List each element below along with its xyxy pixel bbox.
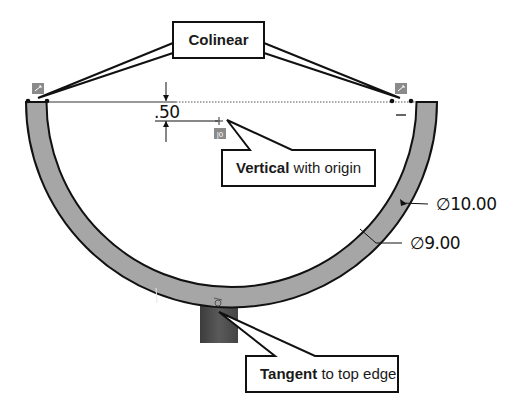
outer-diameter-value: ∅10.00: [436, 194, 496, 214]
origin-point[interactable]: [215, 117, 223, 125]
support-block: [200, 305, 238, 343]
offset-dimension[interactable]: .50: [154, 82, 218, 142]
endpoint[interactable]: [390, 99, 395, 104]
vertical-relation-icon[interactable]: |0: [214, 128, 226, 139]
colinear-label: Colinear: [188, 31, 248, 48]
vertical-callout: Vertical with origin: [222, 120, 375, 186]
vertical-label: Vertical with origin: [236, 159, 361, 176]
ring-arc: [26, 102, 437, 307]
endpoint[interactable]: [409, 99, 414, 104]
tangent-label: Tangent to top edge: [260, 365, 396, 382]
endpoint[interactable]: [26, 99, 31, 104]
inner-diameter-value: ∅9.00: [410, 233, 460, 253]
offset-value: .50: [154, 102, 180, 122]
svg-text:|0: |0: [217, 130, 224, 139]
sketch-canvas: Colinear .50 |0 Vertical with origin ∅10…: [0, 0, 513, 411]
endpoint[interactable]: [45, 99, 50, 104]
colinear-callout: Colinear: [38, 22, 400, 98]
colinear-relation-icon[interactable]: [32, 83, 44, 94]
tangent-callout: Tangent to top edge: [219, 312, 398, 392]
colinear-relation-icon[interactable]: [395, 83, 407, 94]
